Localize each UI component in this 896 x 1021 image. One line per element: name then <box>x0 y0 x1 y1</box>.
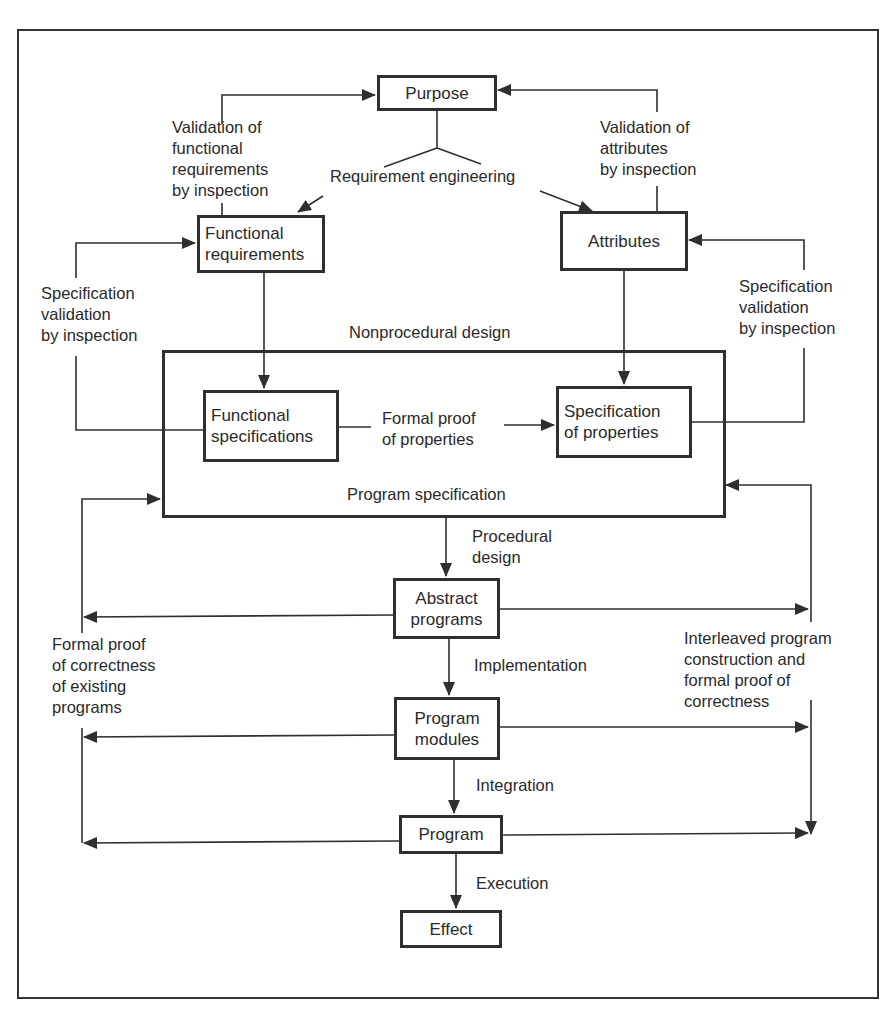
effect-node: Effect <box>400 910 502 948</box>
validation-functional-label: Validation of functional requirements by… <box>172 117 268 201</box>
formal-proof-properties-label: Formal proof of properties <box>382 408 476 450</box>
requirement-engineering-label: Requirement engineering <box>330 166 515 187</box>
specification-of-properties-node: Specification of properties <box>556 386 692 458</box>
abstract-programs-node: Abstract programs <box>393 578 500 639</box>
formal-proof-existing-label: Formal proof of correctness of existing … <box>52 634 156 718</box>
program-node: Program <box>399 815 503 854</box>
diagram-canvas: Purpose Functional requirements Attribut… <box>0 0 896 1021</box>
spec-validation-left-label: Specification validation by inspection <box>41 283 137 346</box>
attributes-node: Attributes <box>560 211 688 271</box>
program-modules-node: Program modules <box>394 697 500 760</box>
procedural-design-label: Procedural design <box>472 526 552 568</box>
nonprocedural-design-label: Nonprocedural design <box>349 322 510 343</box>
implementation-label: Implementation <box>474 655 587 676</box>
functional-requirements-node: Functional requirements <box>197 215 325 273</box>
program-specification-label: Program specification <box>347 484 506 505</box>
spec-validation-right-label: Specification validation by inspection <box>739 276 835 339</box>
integration-label: Integration <box>476 775 554 796</box>
execution-label: Execution <box>476 873 548 894</box>
purpose-node: Purpose <box>377 75 497 111</box>
validation-attributes-label: Validation of attributes by inspection <box>600 117 696 180</box>
interleaved-label: Interleaved program construction and for… <box>684 628 832 712</box>
functional-specifications-node: Functional specifications <box>203 390 339 462</box>
